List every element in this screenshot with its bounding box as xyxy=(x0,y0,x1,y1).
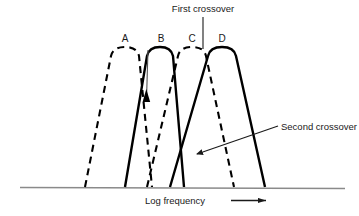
filter-response-figure: A B C D First crossover Second crossover… xyxy=(0,0,359,216)
curve-label-a: A xyxy=(122,33,129,44)
second-crossover-pointer xyxy=(197,126,278,154)
curve-d-path xyxy=(170,47,265,187)
first-crossover-label: First crossover xyxy=(172,3,234,14)
baseline-axis xyxy=(20,188,345,189)
curve-label-b: B xyxy=(158,33,165,44)
curve-label-d: D xyxy=(218,33,225,44)
x-axis-label: Log frequency xyxy=(145,195,205,206)
curve-a-path xyxy=(85,47,152,187)
second-crossover-label: Second crossover xyxy=(281,121,357,132)
curve-label-c: C xyxy=(188,33,195,44)
